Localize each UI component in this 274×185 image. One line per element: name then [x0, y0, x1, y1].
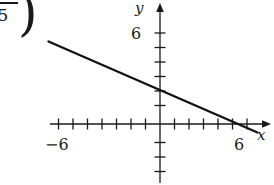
figure-canvas: 5 ): [0, 0, 274, 185]
plotted-line: [49, 42, 258, 133]
x-axis-label: x: [257, 128, 265, 143]
y-axis-label: y: [135, 1, 143, 16]
x-tick-label-6: 6: [234, 137, 244, 153]
y-axis-arrowhead: [156, 3, 164, 12]
y-tick-label-6: 6: [131, 26, 141, 42]
x-tick-label-minus-6: −6: [45, 137, 69, 153]
